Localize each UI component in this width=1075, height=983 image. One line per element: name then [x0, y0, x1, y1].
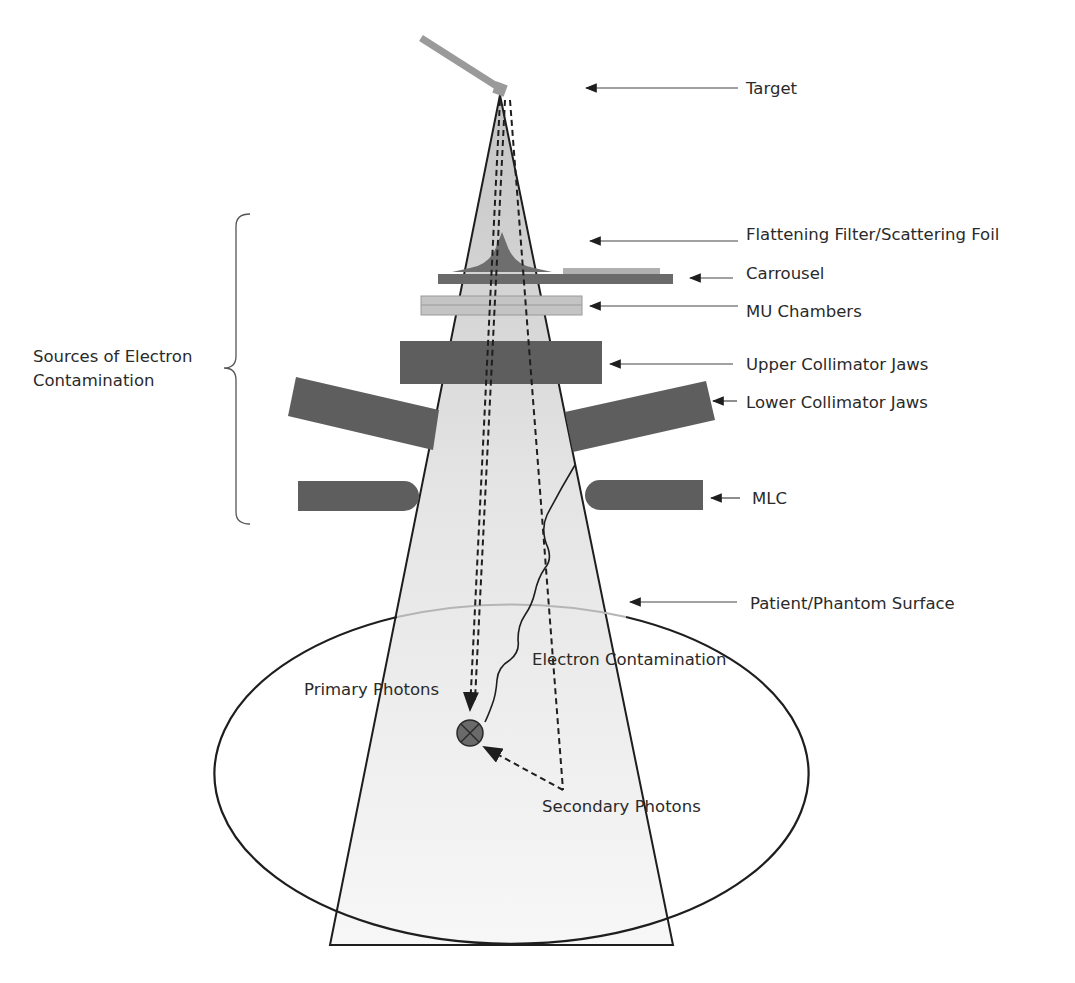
label-electron-contamination: Electron Contamination: [532, 650, 726, 669]
lower-collimator-jaw-right: [565, 381, 715, 452]
label-primary-photons: Primary Photons: [304, 680, 439, 699]
target-arm: [421, 38, 498, 87]
label-sources-line2: Contamination: [33, 371, 155, 390]
label-flattening-filter: Flattening Filter/Scattering Foil: [746, 225, 999, 244]
label-carrousel: Carrousel: [746, 264, 824, 283]
mlc-left: [298, 481, 419, 511]
circle-x-icon: [457, 720, 483, 746]
label-target: Target: [745, 79, 798, 98]
label-patient-surface: Patient/Phantom Surface: [750, 594, 955, 613]
carrousel: [438, 274, 673, 284]
label-secondary-photons: Secondary Photons: [542, 797, 701, 816]
label-upper-jaws: Upper Collimator Jaws: [746, 355, 928, 374]
label-mlc: MLC: [752, 489, 787, 508]
upper-collimator-jaws: [400, 341, 602, 384]
label-sources-line1: Sources of Electron: [33, 347, 192, 366]
linac-diagram: Target Flattening Filter/Scattering Foil…: [0, 0, 1075, 983]
photon-beam: [330, 95, 673, 945]
mlc-right: [585, 480, 703, 510]
lower-collimator-jaw-left: [288, 377, 439, 450]
sources-brace: [224, 214, 250, 524]
label-mu-chambers: MU Chambers: [746, 302, 862, 321]
label-lower-jaws: Lower Collimator Jaws: [746, 393, 928, 412]
scattering-foil: [563, 268, 660, 274]
